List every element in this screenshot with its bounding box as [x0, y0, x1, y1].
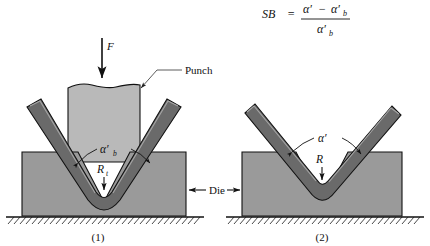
ground-1-hatching	[8, 217, 200, 224]
angle-2-arc-left	[292, 138, 314, 152]
bend-angle-1-label: α′	[100, 143, 109, 155]
bend-angle-1-subscript: b	[113, 149, 117, 158]
bend-angle-2-label: α′	[318, 132, 327, 144]
ground-2-hatching	[228, 217, 420, 224]
formula-lhs: SB	[262, 7, 276, 21]
bend-angle-2-annotation: α′	[292, 132, 361, 154]
punch-label: Punch	[185, 64, 213, 76]
bend-radius-2-annotation: R	[315, 153, 323, 180]
formula-numerator-minus: −	[318, 2, 326, 16]
formula-numerator-alpha-prime: α′	[303, 2, 312, 16]
die-callout: Die	[189, 184, 240, 196]
ground-1	[6, 217, 204, 224]
panel-1-caption: (1)	[92, 231, 105, 244]
v-bending-springback-figure: SB = α′ − α′ b α′ b F	[0, 0, 430, 246]
formula-numerator-subscript: b	[343, 9, 347, 18]
figure-root: SB = α′ − α′ b α′ b F	[0, 0, 430, 246]
force-label: F	[106, 40, 114, 52]
punch-leader-line	[141, 70, 182, 88]
panel-2-caption: (2)	[316, 231, 329, 244]
bend-radius-2-label: R	[315, 153, 323, 165]
bend-radius-1-annotation: R t	[96, 163, 109, 190]
formula-numerator-alpha-prime-b: α′	[331, 2, 340, 16]
panel-2-springback: α′ R (2)	[226, 104, 424, 244]
punch-callout: Punch	[141, 64, 213, 88]
force-arrow-group: F	[102, 38, 114, 78]
panel-1-loaded-bend: F Punch α′ b	[6, 38, 213, 244]
ground-2	[226, 217, 424, 224]
bend-radius-1-subscript: t	[106, 169, 109, 178]
springback-formula: SB = α′ − α′ b α′ b	[262, 2, 350, 38]
formula-denominator-subscript: b	[329, 29, 333, 38]
formula-denominator-alpha-prime: α′	[317, 22, 326, 36]
formula-equals: =	[287, 7, 295, 21]
die-label: Die	[209, 184, 225, 196]
bend-radius-1-label: R	[96, 163, 104, 175]
